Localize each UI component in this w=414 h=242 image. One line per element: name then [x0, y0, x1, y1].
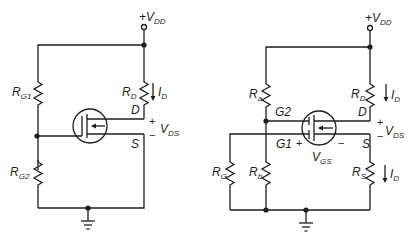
g1-label: G1	[276, 137, 292, 151]
vds-minus-right: −	[377, 130, 383, 142]
ra-label: Ra	[249, 87, 263, 103]
id-label-left: ID	[158, 85, 167, 101]
rg2-label: RG2	[10, 165, 30, 181]
id-label-right-bottom: ID	[390, 167, 399, 183]
wire-bottom	[38, 134, 144, 208]
vgs-minus: −	[338, 137, 344, 149]
source-label-left: S	[131, 137, 139, 151]
rs-label: RS	[352, 165, 367, 181]
resistor-rd	[140, 80, 148, 119]
source-label-right: S	[362, 137, 370, 151]
wire-top	[38, 45, 144, 80]
resistor-rg2	[34, 160, 42, 208]
ground-icon	[299, 210, 313, 231]
resistor-ra	[262, 82, 270, 121]
drain-label-left: D	[131, 103, 140, 117]
vds-minus-left: −	[149, 129, 155, 141]
drain-label-right: D	[358, 105, 367, 119]
resistor-rb	[262, 160, 270, 210]
vds-label-left: VDS	[160, 122, 180, 138]
vds-plus-left: +	[149, 115, 155, 127]
vds-plus-right: +	[377, 116, 383, 128]
junction-dot	[263, 207, 268, 212]
wire-top	[266, 47, 370, 82]
vdd-terminal	[142, 25, 147, 30]
id-label-right-top: ID	[391, 88, 400, 104]
ground-icon	[81, 208, 95, 229]
resistor-rs	[366, 160, 374, 210]
vdd-terminal	[368, 26, 373, 31]
vdd-label-left: +VDD	[139, 10, 166, 26]
resistor-rg	[226, 160, 234, 210]
rb-label: Rb	[249, 165, 263, 181]
vgs-plus: +	[296, 137, 302, 149]
vds-label-right: VDS	[385, 124, 405, 140]
g2-label: G2	[275, 105, 291, 119]
resistor-rg1	[34, 80, 42, 108]
circuit-diagram: +VDD RG1 RG2 RD ID	[0, 0, 414, 242]
rg-label: RG	[212, 165, 227, 181]
vdd-label-right: +VDD	[365, 11, 392, 27]
right-circuit: +VDD Ra G2 G1 Rb RG	[212, 11, 405, 231]
rd-label-right: RD	[351, 87, 366, 103]
vgs-label: VGS	[312, 150, 332, 166]
rd-label-left: RD	[122, 85, 137, 101]
resistor-rd	[366, 82, 374, 121]
left-circuit: +VDD RG1 RG2 RD ID	[10, 10, 180, 229]
rg1-label: RG1	[12, 85, 31, 101]
